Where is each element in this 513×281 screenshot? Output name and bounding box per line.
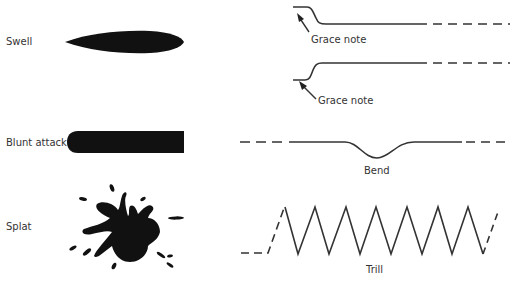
- bend-label: Bend: [364, 165, 390, 176]
- trill-label: Trill: [366, 264, 383, 275]
- splat-shape: [69, 184, 184, 270]
- grace-note-arrow-2: [299, 81, 316, 99]
- diagram-canvas: [0, 0, 513, 281]
- grace-note-arrow-1: [297, 13, 309, 32]
- grace-note-label-2: Grace note: [318, 95, 373, 106]
- bend-curve: [240, 142, 510, 158]
- grace-note-label-1: Grace note: [311, 34, 366, 45]
- grace-note-up-curve: [293, 63, 510, 80]
- splat-label: Splat: [6, 221, 32, 232]
- swell-shape: [65, 31, 184, 53]
- blunt-attack-shape: [67, 131, 184, 153]
- blunt-attack-label: Blunt attack: [6, 137, 67, 148]
- grace-note-down-curve: [293, 7, 510, 24]
- swell-label: Swell: [6, 36, 32, 47]
- trill-zigzag: [241, 207, 498, 254]
